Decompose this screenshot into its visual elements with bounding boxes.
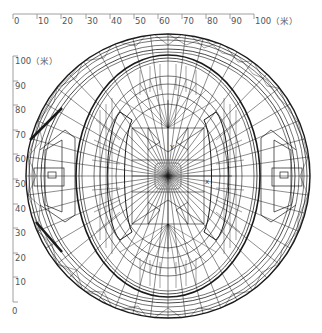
y-axis-marker: Y — [169, 144, 175, 152]
figure: 0 10 20 30 40 50 60 70 80 90 100（米） 100（… — [0, 0, 322, 333]
z-axis-marker: Z — [168, 173, 172, 180]
x-axis-marker: X — [205, 178, 209, 185]
stadium-wireframe: Y Z X — [0, 0, 322, 333]
